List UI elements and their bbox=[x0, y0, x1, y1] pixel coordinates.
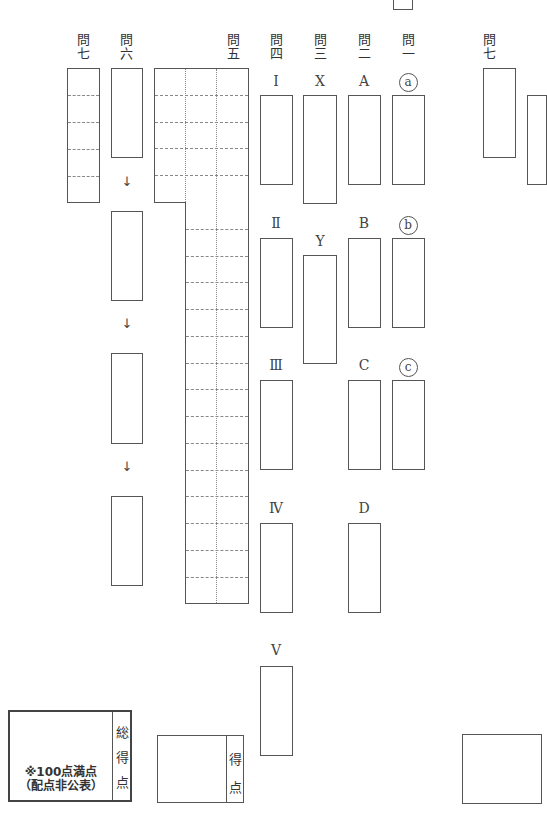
label-bottom: 七 bbox=[477, 47, 501, 61]
label-bottom: 七 bbox=[71, 47, 95, 61]
q2-answer-box-d[interactable] bbox=[348, 523, 381, 613]
q4-answer-box-4[interactable] bbox=[260, 523, 293, 613]
q6-label: 問六 bbox=[114, 33, 138, 61]
q2-answer-box-c[interactable] bbox=[348, 380, 381, 470]
down-arrow-icon: ↓ bbox=[111, 316, 143, 331]
label-bottom: 一 bbox=[396, 47, 420, 61]
label-top: 問 bbox=[396, 33, 420, 47]
row-divider bbox=[186, 550, 248, 551]
q3-item-label-y: Y bbox=[303, 233, 337, 249]
q6-answer-box-1[interactable] bbox=[111, 68, 143, 158]
down-arrow-icon: ↓ bbox=[111, 459, 143, 474]
row-divider bbox=[186, 309, 248, 310]
label-top: 問 bbox=[71, 33, 95, 47]
cell-divider bbox=[68, 122, 99, 123]
q2-answer-box-b[interactable] bbox=[348, 238, 381, 328]
q7-right-label: 問七 bbox=[477, 33, 501, 61]
row-divider bbox=[186, 256, 248, 257]
q1-answer-box-a[interactable] bbox=[392, 95, 425, 185]
q4-item-label-4: Ⅳ bbox=[259, 500, 293, 516]
total-score-note: ※100点満点 （配点非公表） bbox=[10, 765, 112, 793]
cell-divider bbox=[68, 149, 99, 150]
q4-answer-box-2[interactable] bbox=[260, 238, 293, 328]
label-top: 問 bbox=[352, 33, 376, 47]
cell-divider bbox=[68, 95, 99, 96]
char: 点 bbox=[113, 770, 131, 795]
row-divider bbox=[186, 363, 248, 364]
label-top: 問 bbox=[221, 33, 245, 47]
row-divider bbox=[186, 443, 248, 444]
q4-answer-box-1[interactable] bbox=[260, 95, 293, 185]
row-divider bbox=[155, 175, 248, 176]
q5-grid-bottom[interactable] bbox=[185, 202, 249, 604]
q4-item-label-1: Ⅰ bbox=[259, 73, 293, 89]
q7-answer-grid[interactable] bbox=[67, 68, 100, 203]
column-divider bbox=[185, 69, 186, 202]
partial-box-right[interactable] bbox=[527, 95, 547, 185]
q2-label: 問二 bbox=[352, 33, 376, 61]
circled-letter: b bbox=[399, 216, 418, 235]
label-bottom: 二 bbox=[352, 47, 376, 61]
char: 得 bbox=[227, 746, 244, 774]
total-score-box: 総 得 点 ※100点満点 （配点非公表） bbox=[8, 710, 132, 802]
q1-item-label-b: b bbox=[391, 216, 425, 235]
q2-item-label-c: C bbox=[347, 357, 381, 373]
note-line-2: （配点非公表） bbox=[10, 779, 112, 793]
q7-left-label: 問七 bbox=[71, 33, 95, 61]
row-divider bbox=[155, 95, 248, 96]
q2-answer-box-a[interactable] bbox=[348, 95, 381, 185]
row-divider bbox=[186, 282, 248, 283]
q1-answer-box-c[interactable] bbox=[392, 380, 425, 470]
q6-answer-box-2[interactable] bbox=[111, 211, 143, 301]
row-divider bbox=[186, 523, 248, 524]
q3-item-label-x: X bbox=[303, 73, 337, 89]
row-divider bbox=[186, 389, 248, 390]
q4-item-label-5: Ⅴ bbox=[259, 642, 293, 658]
q6-answer-box-3[interactable] bbox=[111, 353, 143, 444]
label-bottom: 五 bbox=[221, 47, 245, 61]
circled-letter: a bbox=[399, 73, 418, 92]
label-bottom: 四 bbox=[264, 47, 288, 61]
label-bottom: 六 bbox=[114, 47, 138, 61]
q4-label: 問四 bbox=[264, 33, 288, 61]
label-top: 問 bbox=[477, 33, 501, 47]
circled-letter: c bbox=[399, 358, 418, 377]
q6-answer-box-4[interactable] bbox=[111, 496, 143, 586]
page-score-box: 得 点 bbox=[157, 735, 244, 803]
note-line-1: ※100点満点 bbox=[10, 765, 112, 779]
char: 点 bbox=[227, 774, 244, 802]
row-divider bbox=[155, 148, 248, 149]
q5-grid-top[interactable] bbox=[154, 68, 249, 203]
q4-answer-box-5[interactable] bbox=[260, 666, 293, 756]
row-divider bbox=[186, 470, 248, 471]
q4-item-label-2: Ⅱ bbox=[259, 215, 293, 231]
row-divider bbox=[186, 336, 248, 337]
page-score-label: 得 点 bbox=[227, 746, 244, 802]
q1-item-label-c: c bbox=[391, 358, 425, 377]
q5-grid-step bbox=[154, 202, 186, 203]
q3-answer-box-x[interactable] bbox=[303, 95, 337, 204]
q3-answer-box-y[interactable] bbox=[303, 255, 337, 364]
q4-item-label-3: Ⅲ bbox=[259, 357, 293, 373]
q5-label: 問五 bbox=[221, 33, 245, 61]
q1-answer-box-b[interactable] bbox=[392, 238, 425, 328]
label-top: 問 bbox=[114, 33, 138, 47]
row-divider bbox=[186, 229, 248, 230]
partial-score-box-right bbox=[462, 734, 542, 804]
q1-label: 問一 bbox=[396, 33, 420, 61]
row-divider bbox=[155, 122, 248, 123]
char: 総 bbox=[113, 720, 131, 745]
q2-item-label-a: A bbox=[347, 73, 381, 89]
q7-right-answer-box[interactable] bbox=[483, 68, 516, 158]
q4-answer-box-3[interactable] bbox=[260, 380, 293, 470]
row-divider bbox=[186, 496, 248, 497]
q1-item-label-a: a bbox=[391, 73, 425, 92]
char: 得 bbox=[113, 745, 131, 770]
down-arrow-icon: ↓ bbox=[111, 174, 143, 189]
label-top: 問 bbox=[308, 33, 332, 47]
q2-item-label-d: D bbox=[347, 500, 381, 516]
row-divider bbox=[186, 577, 248, 578]
label-bottom: 三 bbox=[308, 47, 332, 61]
top-small-box bbox=[393, 0, 413, 10]
cell-divider bbox=[68, 176, 99, 177]
